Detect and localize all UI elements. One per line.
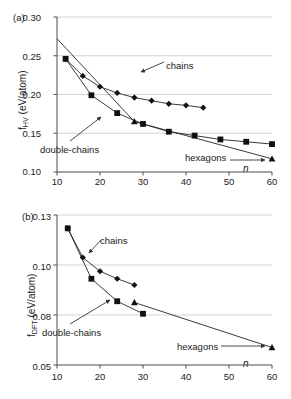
panel-a-plot-area: [0, 0, 291, 199]
panel-a: (a) fHV (eV/atom) 0.30 0.25 0.20 0.15 0.…: [0, 0, 291, 199]
figure-container: (a) fHV (eV/atom) 0.30 0.25 0.20 0.15 0.…: [0, 0, 291, 399]
panel-b-plot-area: [0, 199, 291, 399]
panel-b: (b) fDFT (eV/atom) 0.13 0.10 0.08 0.05 1…: [0, 199, 291, 399]
